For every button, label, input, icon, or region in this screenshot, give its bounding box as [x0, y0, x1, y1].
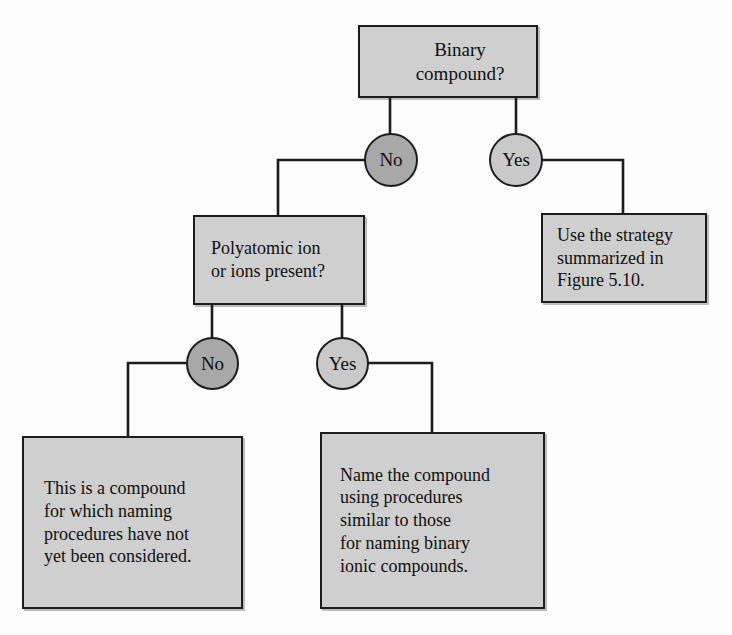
node-binary-compound-label: Binary compound?	[416, 38, 505, 86]
node-use-strategy: Use the strategy summarized in Figure 5.…	[541, 213, 707, 303]
node-polyatomic-ion-label: Polyatomic ion or ions present?	[211, 237, 325, 282]
node-name-compound: Name the compound using procedures simil…	[320, 432, 545, 609]
edge-yes1-to-strategy	[543, 160, 623, 213]
decision-binary-yes-label: Yes	[502, 149, 530, 171]
edge-yes2-to-name-compound	[369, 363, 432, 432]
decision-binary-no-label: No	[379, 149, 402, 171]
node-not-considered: This is a compound for which naming proc…	[22, 436, 243, 609]
edge-no1-to-polyatomic	[278, 160, 364, 215]
node-polyatomic-ion: Polyatomic ion or ions present?	[193, 215, 365, 305]
decision-polyatomic-no: No	[186, 337, 239, 390]
decision-binary-no: No	[364, 133, 418, 187]
node-use-strategy-label: Use the strategy summarized in Figure 5.…	[557, 224, 673, 292]
edge-no2-to-not-considered	[128, 363, 186, 436]
flowchart-canvas: Binary compound? No Yes Use the strategy…	[0, 0, 732, 635]
decision-polyatomic-yes-label: Yes	[329, 353, 357, 375]
decision-polyatomic-no-label: No	[201, 353, 224, 375]
node-binary-compound: Binary compound?	[358, 25, 538, 98]
decision-binary-yes: Yes	[489, 133, 543, 187]
decision-polyatomic-yes: Yes	[316, 337, 369, 390]
node-name-compound-label: Name the compound using procedures simil…	[340, 464, 490, 577]
node-not-considered-label: This is a compound for which naming proc…	[44, 477, 191, 568]
